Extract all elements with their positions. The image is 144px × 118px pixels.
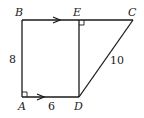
right-angle-a-icon bbox=[22, 92, 27, 97]
label-d: D bbox=[73, 100, 83, 113]
label-b: B bbox=[14, 6, 23, 19]
length-ad: 6 bbox=[48, 100, 55, 113]
label-e: E bbox=[72, 6, 81, 19]
length-dc: 10 bbox=[110, 54, 124, 67]
right-angle-e-icon bbox=[79, 20, 84, 25]
segment-dc bbox=[79, 20, 133, 97]
length-ab: 8 bbox=[9, 53, 16, 66]
label-c: C bbox=[128, 6, 137, 19]
label-a: A bbox=[17, 100, 26, 113]
trapezoid-diagram: B E C A D 8 6 10 bbox=[0, 0, 144, 118]
